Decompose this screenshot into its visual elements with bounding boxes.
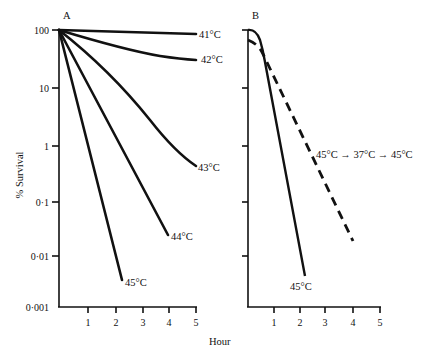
curve-b-45c <box>248 30 305 276</box>
y-axis-label: % Survival <box>14 151 25 198</box>
svg-text:0·001: 0·001 <box>26 302 49 313</box>
svg-text:2: 2 <box>114 317 119 328</box>
curve-41c <box>59 30 196 34</box>
y-tick-labels: 100 10 1 0·1 0·01 0·001 <box>26 25 49 313</box>
label-42c: 42°C <box>201 54 223 65</box>
svg-text:4: 4 <box>167 317 172 328</box>
label-41c: 41°C <box>199 29 221 40</box>
svg-text:100: 100 <box>34 25 49 36</box>
panel-b-x-tick-labels: 1 2 3 4 5 <box>272 317 383 328</box>
label-43c: 43°C <box>198 162 220 173</box>
x-axis-label: Hour <box>209 336 231 347</box>
svg-text:5: 5 <box>194 317 199 328</box>
svg-text:1: 1 <box>44 141 49 152</box>
panel-a-axes <box>52 30 197 313</box>
svg-text:5: 5 <box>378 317 383 328</box>
panel-b-axes <box>242 30 381 313</box>
svg-text:1: 1 <box>272 317 277 328</box>
curve-44c <box>59 30 168 235</box>
label-b-45c: 45°C <box>290 281 312 292</box>
label-b-cycle: 45°C → 37°C → 45°C <box>316 149 413 160</box>
svg-text:3: 3 <box>323 317 328 328</box>
svg-text:0·1: 0·1 <box>36 197 49 208</box>
panel-b-label: B <box>252 10 259 21</box>
curve-45c <box>59 30 122 280</box>
svg-text:0·01: 0·01 <box>31 251 49 262</box>
label-44c: 44°C <box>171 231 193 242</box>
svg-text:4: 4 <box>351 317 356 328</box>
svg-text:3: 3 <box>141 317 146 328</box>
svg-text:1: 1 <box>86 317 91 328</box>
svg-text:10: 10 <box>39 83 49 94</box>
label-45c: 45°C <box>125 277 147 288</box>
survival-figure: A B 100 10 1 0·1 0·01 0·001 1 2 3 4 5 % … <box>0 0 422 354</box>
panel-a-curves <box>59 30 196 280</box>
curve-b-cycle <box>248 40 353 241</box>
svg-text:2: 2 <box>298 317 303 328</box>
panel-a-label: A <box>63 10 71 21</box>
panel-a-x-tick-labels: 1 2 3 4 5 <box>86 317 199 328</box>
